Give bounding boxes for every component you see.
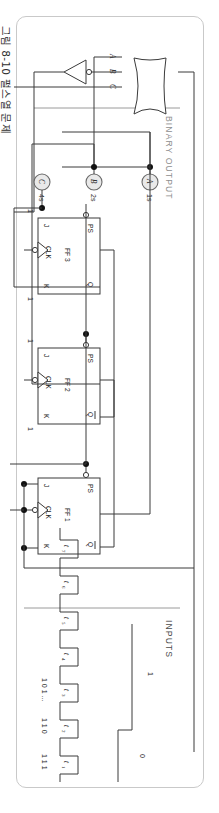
ff1-q-label: Q [86,542,94,547]
input-level-1: 1 [147,672,154,676]
rotated-figure-wrapper: BINARY OUTPUT A B C [0,0,219,813]
binary-value-2: 1 1 0 [41,718,48,734]
ff1-ps-label: PS [87,484,94,493]
indicator-b-weight: 2s [90,194,97,202]
flipflop-2: PS J K Q FF 2 CLK [32,342,100,424]
or-input-b-label: B [108,69,116,74]
ff1-j-label: J [43,484,50,487]
pulse-sub-3: 3 [61,694,66,697]
indicator-c-letter: C [37,179,45,184]
pulse-sub-5: 5 [61,622,66,625]
pulse-label-2: t [62,725,71,728]
input-level-waveform: 0 1 [118,624,154,782]
pulse-label-3: t [62,689,71,692]
pulse-label-5: t [62,617,71,620]
inverter-gate [64,60,92,84]
circuit-diagram: BINARY OUTPUT A B C [10,12,210,802]
ff3-q-label: Q [86,282,94,287]
pulse-sub-4: 4 [61,658,66,661]
ff3-j-label: J [43,224,50,227]
pulse-label-1: t [62,761,71,764]
pulse-label-6: t [62,581,71,584]
flipflop-1: PS J K Q FF 1 CLK [32,472,100,554]
ff2-ps-label: PS [87,354,94,363]
figure-page: BINARY OUTPUT A B C [0,0,219,813]
ff1-name: FF 1 [64,508,71,522]
or-input-a-label: A [108,53,116,59]
indicator-b-letter: B [89,179,97,184]
pulse-sub-1: 1 [61,766,66,769]
indicator-a-letter: A [145,178,153,184]
indicator-a-weight: 1s [146,194,153,202]
ff2-k-label: K [43,414,50,419]
inputs-label: INPUTS [164,620,174,658]
pulse-sub-7: 7 [61,550,66,553]
ff2-k-tie: 1 [27,427,34,431]
input-level-0: 0 [139,754,146,758]
ff2-j-label: J [43,354,50,357]
ff2-q-label: Q [86,412,94,417]
indicator-b: B [86,174,102,190]
pulse-label-7: t [62,545,71,548]
clock-pulse-labels: t 1 t 2 t 3 t 4 t 5 t 6 t 7 [61,545,71,769]
pulse-sub-2: 2 [61,730,66,733]
figure-caption: 그림 8-10 펄스열 문제 [0,26,14,134]
binary-output-label: BINARY OUTPUT [164,116,174,200]
indicator-c-weight: 4s [38,194,45,202]
ff3-ps-label: PS [87,224,94,233]
pulse-sub-6: 6 [61,586,66,589]
binary-value-annotations: 1 1 1 1 1 0 1 0 1 ... [41,678,48,770]
figure-canvas: BINARY OUTPUT A B C [10,12,210,802]
ff3-name: FF 3 [64,248,71,262]
binary-value-1: 1 1 1 [41,754,48,770]
binary-value-3: 1 0 1 ... [41,678,48,701]
flipflop-3: PS J K Q FF 3 CLK [32,212,100,294]
pulse-label-4: t [62,653,71,656]
ff3-k-label: K [43,284,50,289]
or-gate [134,58,166,114]
or-input-c-label: C [108,84,116,89]
indicator-c: C [34,174,50,190]
ff1-k-label: K [43,544,50,549]
junction-dot-b [91,164,97,170]
